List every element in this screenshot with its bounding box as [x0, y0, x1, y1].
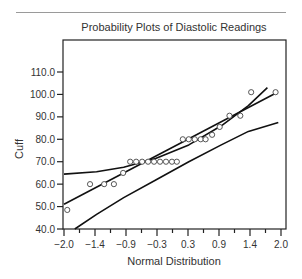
- y-tick-label: 40.0: [36, 224, 56, 235]
- data-point: [151, 159, 156, 164]
- x-tick-label: −2.0: [54, 239, 74, 250]
- data-point: [128, 159, 133, 164]
- y-tick-label: 110.0: [31, 67, 56, 78]
- data-point: [273, 90, 278, 95]
- data-point: [249, 90, 254, 95]
- chart-title: Probability Plots of Diastolic Readings: [81, 21, 267, 33]
- data-point: [180, 137, 185, 142]
- data-point: [121, 170, 126, 175]
- data-point: [111, 182, 116, 187]
- x-axis-label: Normal Distribution: [127, 255, 221, 267]
- data-point: [169, 159, 174, 164]
- data-point: [192, 137, 197, 142]
- data-point: [210, 132, 215, 137]
- data-point: [157, 159, 162, 164]
- x-tick-label: 0.3: [181, 239, 195, 250]
- x-axis: −2.0−1.4−0.9−0.30.30.91.42.0: [54, 229, 288, 250]
- x-tick-label: −0.9: [116, 239, 136, 250]
- y-tick-label: 60.0: [36, 179, 56, 190]
- y-axis-label: Cuff: [13, 138, 25, 159]
- data-point: [198, 137, 203, 142]
- data-point: [145, 159, 150, 164]
- data-point: [65, 207, 70, 212]
- data-point: [227, 113, 232, 118]
- x-tick-label: 0.9: [212, 239, 226, 250]
- data-point: [174, 159, 179, 164]
- data-point: [203, 137, 208, 142]
- data-point: [134, 159, 139, 164]
- data-point: [87, 182, 92, 187]
- y-tick-label: 90.0: [36, 111, 56, 122]
- plot-area: [63, 40, 286, 229]
- data-point: [186, 137, 191, 142]
- data-point: [140, 159, 145, 164]
- data-point: [163, 159, 168, 164]
- y-tick-label: 70.0: [36, 156, 56, 167]
- data-point: [238, 113, 243, 118]
- x-tick-label: 1.4: [243, 239, 257, 250]
- x-tick-label: −1.4: [85, 239, 105, 250]
- y-axis: 40.050.060.070.080.090.0100.0110.0: [30, 67, 63, 235]
- data-point: [102, 182, 107, 187]
- curve-line: [75, 123, 278, 230]
- data-point: [217, 124, 222, 129]
- confidence-curves: [64, 88, 278, 229]
- y-tick-label: 50.0: [36, 201, 56, 212]
- x-tick-label: −0.3: [147, 239, 167, 250]
- y-tick-label: 100.0: [30, 89, 55, 100]
- y-tick-label: 80.0: [36, 134, 56, 145]
- x-tick-label: 2.0: [274, 239, 288, 250]
- probability-plot: Probability Plots of Diastolic Readings …: [0, 0, 302, 279]
